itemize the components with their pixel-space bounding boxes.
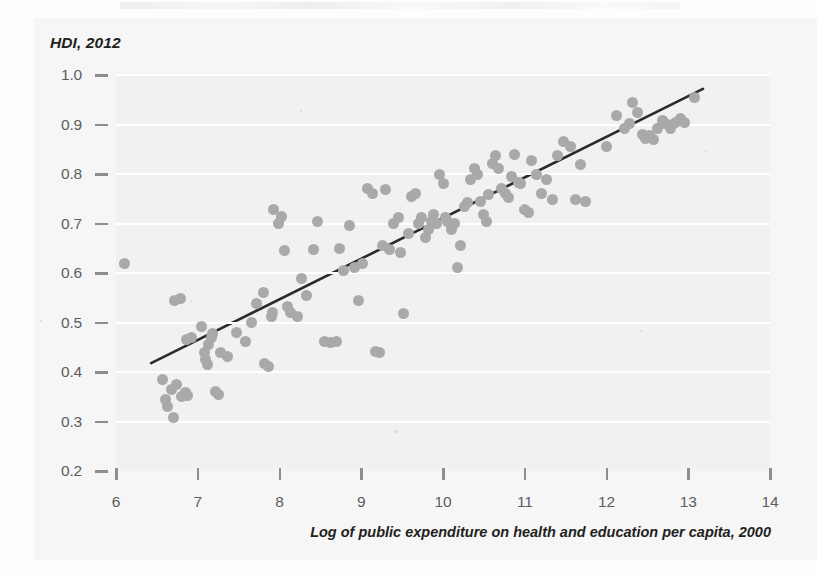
gridline-horizontal xyxy=(116,74,770,76)
y-axis-tick-label: 0.8 xyxy=(46,165,82,183)
scatter-point xyxy=(490,150,501,161)
x-axis-tick xyxy=(360,468,363,480)
y-axis-tick xyxy=(95,74,108,77)
x-axis-tick xyxy=(687,468,690,480)
scatter-point xyxy=(263,361,274,372)
scatter-point xyxy=(186,332,197,343)
scatter-point xyxy=(689,92,700,103)
scatter-point xyxy=(679,117,690,128)
scatter-point xyxy=(168,412,179,423)
x-axis-tick xyxy=(115,468,118,480)
y-axis-tick-label: 0.2 xyxy=(46,462,82,480)
gridline-horizontal xyxy=(116,272,770,274)
scan-speck xyxy=(705,150,707,152)
scatter-point xyxy=(338,265,349,276)
scan-speck xyxy=(300,110,302,112)
scatter-point xyxy=(384,244,395,255)
scatter-point xyxy=(493,163,504,174)
scatter-point xyxy=(452,262,463,273)
scatter-point xyxy=(575,159,586,170)
x-axis-title: Log of public expenditure on health and … xyxy=(226,524,771,540)
page-bleed-artifact xyxy=(120,2,680,9)
x-axis-tick-label: 7 xyxy=(183,493,213,511)
x-axis-tick xyxy=(606,468,609,480)
scatter-point xyxy=(410,188,421,199)
y-axis-tick xyxy=(95,173,108,176)
figure-container: HDI, 2012 Log of public expenditure on h… xyxy=(0,0,817,577)
gridline-horizontal xyxy=(116,421,770,423)
y-axis-title: HDI, 2012 xyxy=(50,34,121,52)
y-axis-tick-label: 0.5 xyxy=(46,314,82,332)
scatter-point xyxy=(231,327,242,338)
plot-area xyxy=(116,75,770,471)
x-axis-tick xyxy=(442,468,445,480)
scatter-point xyxy=(308,244,319,255)
scan-speck xyxy=(395,430,398,433)
x-axis-tick-label: 11 xyxy=(510,493,540,511)
x-axis-tick-label: 10 xyxy=(428,493,458,511)
scatter-point xyxy=(353,295,364,306)
scatter-point xyxy=(580,196,591,207)
scan-speck xyxy=(520,205,522,207)
y-axis-tick-label: 0.7 xyxy=(46,215,82,233)
scatter-point xyxy=(357,258,368,269)
x-axis-tick-label: 9 xyxy=(346,493,376,511)
scatter-point xyxy=(438,178,449,189)
scan-speck xyxy=(40,320,42,322)
scatter-point xyxy=(276,211,287,222)
x-axis-tick-label: 6 xyxy=(101,493,131,511)
scatter-point xyxy=(403,228,414,239)
scatter-point xyxy=(393,212,404,223)
scatter-point xyxy=(331,336,342,347)
scatter-point xyxy=(258,287,269,298)
scatter-point xyxy=(207,328,218,339)
scan-speck xyxy=(640,330,642,332)
x-axis-tick xyxy=(524,468,527,480)
scatter-point xyxy=(222,351,233,362)
scatter-point xyxy=(213,389,224,400)
y-axis-tick-label: 0.4 xyxy=(46,363,82,381)
y-axis-tick xyxy=(95,272,108,275)
scatter-point xyxy=(632,107,643,118)
x-axis-tick xyxy=(197,468,200,480)
scatter-point xyxy=(541,174,552,185)
x-axis-tick-label: 8 xyxy=(265,493,295,511)
scatter-point xyxy=(481,216,492,227)
y-axis-tick xyxy=(95,421,108,424)
y-axis-tick xyxy=(95,322,108,325)
y-axis-tick-label: 0.6 xyxy=(46,264,82,282)
scan-speck xyxy=(190,300,192,302)
scatter-point xyxy=(301,290,312,301)
y-axis-tick-label: 0.9 xyxy=(46,116,82,134)
y-axis-tick-label: 0.3 xyxy=(46,413,82,431)
scatter-point xyxy=(157,374,168,385)
scatter-point xyxy=(536,188,547,199)
scatter-point xyxy=(395,247,406,258)
x-axis-tick-label: 12 xyxy=(592,493,622,511)
scatter-point xyxy=(312,216,323,227)
scatter-point xyxy=(292,311,303,322)
scatter-point xyxy=(624,118,635,129)
scatter-point xyxy=(611,110,622,121)
gridline-horizontal xyxy=(116,371,770,373)
scatter-point xyxy=(523,207,534,218)
gridline-horizontal xyxy=(116,322,770,324)
y-axis-tick-label: 1.0 xyxy=(46,66,82,84)
scatter-point xyxy=(449,218,460,229)
scatter-point xyxy=(240,336,251,347)
y-axis-tick xyxy=(95,371,108,374)
y-axis-tick xyxy=(95,470,108,473)
x-axis-tick-label: 13 xyxy=(673,493,703,511)
scatter-point xyxy=(526,155,537,166)
x-axis-tick xyxy=(769,468,772,480)
scatter-point xyxy=(552,150,563,161)
y-axis-tick xyxy=(95,124,108,127)
x-axis-tick-label: 14 xyxy=(755,493,785,511)
scatter-point xyxy=(531,169,542,180)
y-axis-tick xyxy=(95,223,108,226)
scatter-point xyxy=(374,347,385,358)
x-axis-tick xyxy=(279,468,282,480)
